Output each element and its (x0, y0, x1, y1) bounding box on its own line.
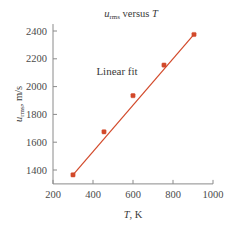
y-tick-label: 2000 (26, 81, 47, 92)
linear-fit-line (73, 34, 194, 174)
y-axis-label: urms, m/s (13, 86, 26, 122)
data-point-marker (71, 173, 75, 177)
annotation-linear-fit: Linear fit (96, 65, 137, 77)
chart-canvas: urms versus T 2004006008001000 140016001… (0, 0, 243, 244)
plot-title: urms versus T (104, 8, 159, 21)
x-tick-label: 400 (85, 189, 101, 200)
chart-axes (53, 24, 213, 184)
y-tick-label: 2400 (26, 26, 47, 37)
x-axis-ticks: 2004006008001000 (45, 180, 223, 200)
axis-labels: T, Kurms, m/s (13, 86, 143, 220)
y-tick-label: 1400 (26, 165, 47, 176)
x-tick-label: 800 (165, 189, 181, 200)
chart-figure: urms versus T 2004006008001000 140016001… (0, 0, 243, 244)
fit-line-path (73, 34, 194, 174)
x-tick-label: 200 (45, 189, 61, 200)
data-point-marker (192, 32, 196, 36)
x-tick-label: 600 (125, 189, 141, 200)
plot-title-text: urms versus T (104, 8, 159, 21)
x-axis-label: T, K (124, 209, 143, 220)
y-axis-ticks: 140016001800200022002400 (26, 26, 57, 176)
y-tick-label: 1800 (26, 109, 47, 120)
chart-annotation: Linear fit (96, 65, 137, 77)
data-point-marker (102, 130, 106, 134)
data-point-marker (131, 94, 135, 98)
data-point-marker (162, 63, 166, 67)
y-tick-label: 2200 (26, 53, 47, 64)
x-tick-label: 1000 (203, 189, 224, 200)
y-tick-label: 1600 (26, 137, 47, 148)
